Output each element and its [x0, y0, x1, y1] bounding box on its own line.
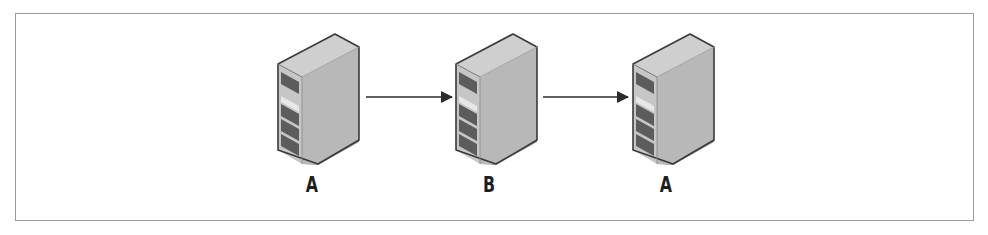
diagram-canvas: [0, 0, 988, 235]
server-icon: [633, 34, 714, 165]
node-label: B: [475, 172, 504, 197]
node-label: A: [652, 172, 681, 197]
node-label: A: [298, 172, 327, 197]
server-icon: [456, 34, 537, 165]
server-icon: [278, 34, 359, 165]
